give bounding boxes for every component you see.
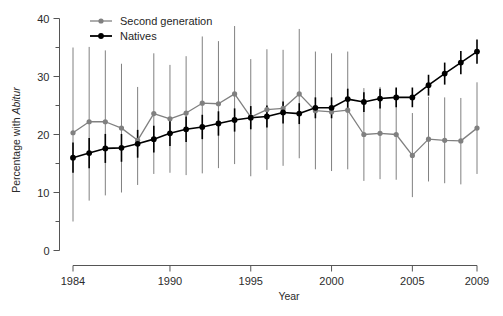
y-tick-label: 30 (37, 71, 49, 83)
x-axis-title: Year (278, 290, 300, 302)
data-point (216, 101, 221, 106)
data-point (232, 91, 237, 96)
chart-figure: 010203040 198419901995200020052009 Secon… (0, 0, 503, 316)
x-tick-label: 2009 (465, 275, 489, 287)
data-point (264, 107, 269, 112)
data-point (119, 145, 125, 151)
data-point (135, 141, 141, 147)
y-tick-label: 0 (43, 245, 49, 257)
data-point (119, 126, 124, 131)
data-point (297, 91, 302, 96)
data-point (313, 105, 319, 111)
data-point (361, 99, 367, 105)
data-point (167, 130, 173, 136)
y-tick-label: 40 (37, 13, 49, 25)
data-point (377, 96, 383, 102)
y-axis-title: Percentage with Abitur (10, 87, 22, 193)
data-point (474, 126, 479, 131)
x-tick-label: 1995 (239, 275, 263, 287)
x-tick-label: 1990 (158, 275, 182, 287)
data-point (167, 116, 172, 121)
data-point (200, 101, 205, 106)
data-point (103, 119, 108, 124)
data-point (426, 82, 432, 88)
data-point (216, 121, 222, 127)
data-point (442, 71, 448, 77)
data-point (102, 146, 108, 152)
x-tick-label: 2005 (400, 275, 424, 287)
data-point (70, 130, 75, 135)
data-point (184, 110, 189, 115)
abitur-trend-line-chart: 010203040 198419901995200020052009 Secon… (0, 0, 503, 316)
data-point (410, 153, 415, 158)
data-point (409, 94, 415, 100)
svg-text:Percentage with Abitur: Percentage with Abitur (10, 87, 22, 193)
data-point (248, 115, 254, 121)
data-point (183, 126, 189, 132)
legend-marker (98, 18, 103, 23)
data-point (280, 110, 286, 116)
data-point (264, 114, 270, 120)
data-point (232, 117, 238, 123)
data-point (393, 94, 399, 100)
data-point (458, 60, 464, 66)
y-tick-label: 20 (37, 129, 49, 141)
data-point (394, 132, 399, 137)
y-tick-label: 10 (37, 187, 49, 199)
data-point (199, 124, 205, 130)
data-point (377, 131, 382, 136)
y-axis-title-prefix: Percentage with (10, 115, 22, 193)
data-point (86, 150, 92, 156)
data-point (151, 111, 156, 116)
legend-marker (98, 33, 104, 39)
legend-label: Natives (120, 30, 157, 42)
data-point (296, 111, 302, 117)
data-point (70, 155, 76, 161)
x-tick-label: 2000 (319, 275, 343, 287)
data-point (87, 119, 92, 124)
legend-label: Second generation (120, 15, 212, 27)
y-axis-title-italic: Abitur (10, 87, 22, 116)
data-point (474, 49, 480, 55)
data-point (361, 132, 366, 137)
data-point (151, 136, 157, 142)
x-tick-label: 1984 (61, 275, 85, 287)
data-point (329, 105, 335, 111)
data-point (345, 108, 350, 113)
data-point (345, 96, 351, 102)
data-point (458, 138, 463, 143)
data-point (442, 138, 447, 143)
data-point (426, 137, 431, 142)
